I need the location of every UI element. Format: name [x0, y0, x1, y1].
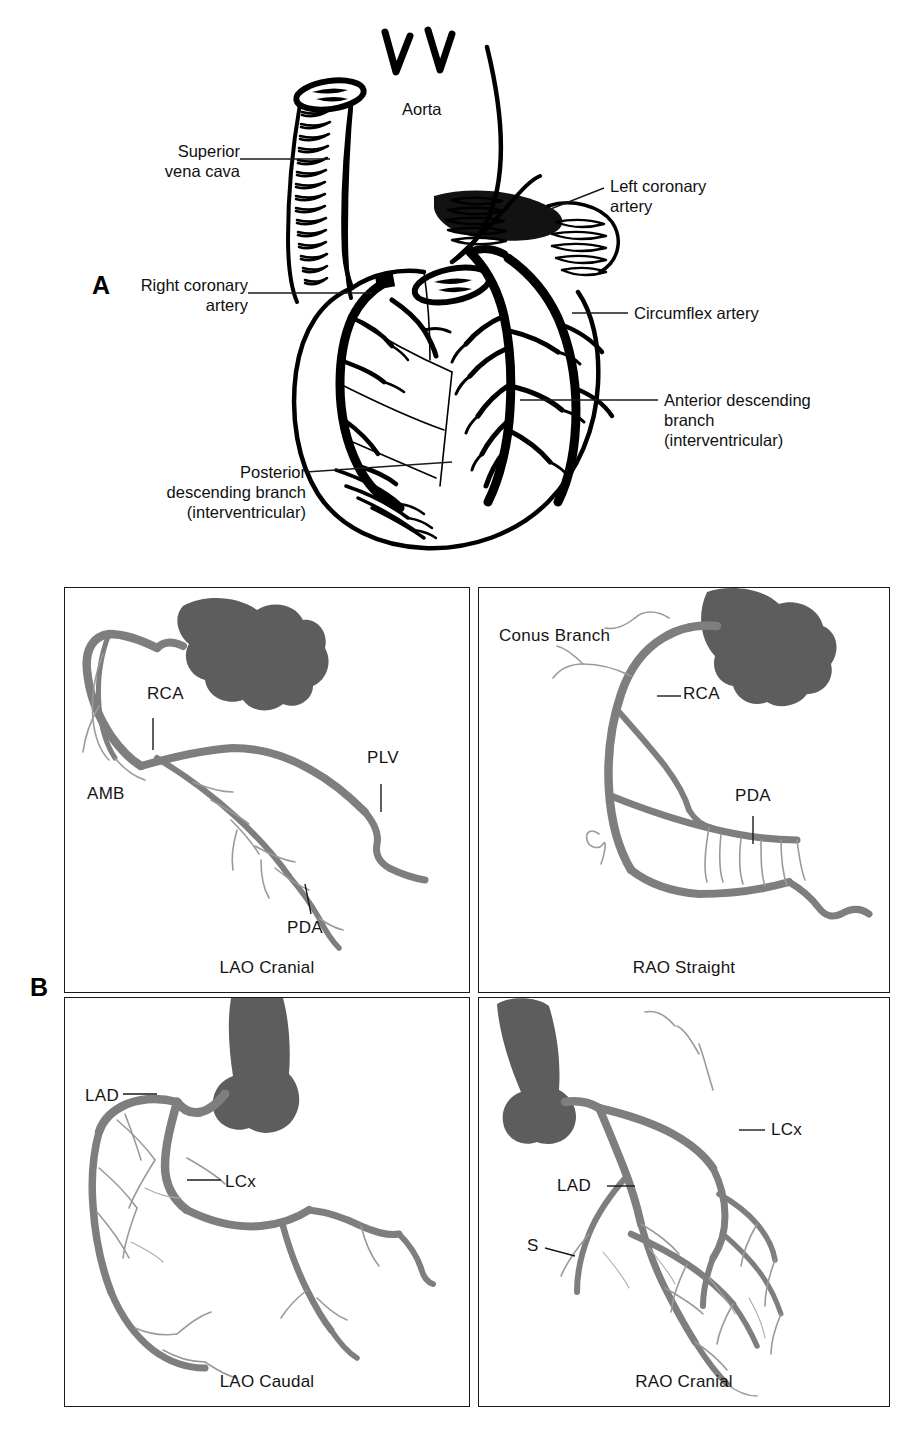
label-rca: RCA [147, 684, 184, 704]
label-right-coronary-artery: Right coronary artery [66, 275, 248, 315]
aortic-catheter-blob [497, 998, 576, 1144]
leader-posterior-descending-branch [306, 462, 452, 472]
rca-rao-straight-drawing [479, 588, 888, 991]
pda-septal-2 [740, 838, 743, 884]
pda-septal-1 [720, 834, 723, 882]
label-posterior-descending-branch: Posterior descending branch (interventri… [100, 462, 306, 522]
pda-septal-3 [761, 840, 765, 886]
conus-branch [635, 612, 669, 618]
vessel-stump-right-icon [428, 30, 452, 70]
label-circumflex-artery: Circumflex artery [634, 303, 854, 323]
diagonal-1b [129, 1160, 155, 1208]
sinus-node-branch [553, 664, 631, 678]
pda-septal-2 [211, 800, 249, 824]
aortic-catheter-blob [213, 998, 300, 1133]
label-pda: PDA [735, 786, 771, 806]
label-lcx: LCx [771, 1120, 802, 1140]
lca-lao-caudal-drawing [65, 998, 468, 1405]
angiogram-panel-rao-cranial: LCx LAD S RAO Cranial [478, 997, 890, 1407]
left-main-coronary-artery [470, 249, 504, 254]
lad-septal-twigs [452, 344, 482, 470]
lca-rao-cranial-drawing [479, 998, 888, 1405]
view-name-rao-cranial: RAO Cranial [479, 1372, 889, 1392]
left-auricle-contour [548, 203, 618, 272]
label-plv: PLV [367, 748, 399, 768]
hair-4 [603, 1252, 629, 1288]
label-superior-vena-cava: Superior vena cava [60, 141, 240, 181]
apical-1 [135, 1328, 177, 1335]
label-lad: LAD [557, 1176, 591, 1196]
label-aorta: Aorta [402, 99, 522, 119]
left-auricle-hatching [552, 220, 606, 275]
rca-main-trunk [609, 626, 718, 871]
vessel-stump-left-icon [385, 32, 410, 72]
diagonal-1 [117, 1120, 155, 1160]
lcx-top-twig-2 [677, 1026, 699, 1054]
coronary-anatomy-figure: A [0, 0, 920, 1431]
rca-terminal [789, 882, 869, 916]
septal-branch-distal [733, 1304, 757, 1346]
lcx-om2 [283, 1226, 331, 1330]
angiogram-panel-lao-caudal: LAD LCx LAO Caudal [64, 997, 470, 1407]
angiogram-panel-rao-straight: Conus Branch RCA PDA RAO Straight [478, 587, 890, 993]
rca-distal-course [631, 870, 789, 894]
label-s: S [527, 1236, 539, 1256]
label-pda: PDA [287, 918, 323, 938]
acute-marginal-branch [619, 712, 689, 810]
apical-2 [177, 1312, 211, 1334]
lad-distal [111, 1292, 205, 1368]
lcx-mid [187, 1210, 309, 1226]
label-amb: AMB [87, 784, 125, 804]
aortic-catheter-blob [701, 588, 836, 706]
lcx-om1 [309, 1210, 399, 1235]
rca-distal-course [141, 748, 365, 812]
sinus-node-twig [557, 646, 583, 664]
left-atrial-appendage-shape [434, 191, 562, 241]
septal-1 [125, 1114, 141, 1160]
leader-s [545, 1248, 575, 1256]
lcx-om1-distal [399, 1234, 433, 1284]
label-left-coronary-artery: Left coronary artery [610, 176, 810, 216]
panel-b-angiographic-views: RCA AMB PLV PDA LAO Cranial [0, 565, 920, 1431]
pda-septal-6 [232, 830, 237, 870]
svc-left-contour [288, 104, 300, 302]
panel-a-anterior-heart-diagram: A [0, 0, 920, 565]
plv-branch [365, 812, 425, 880]
view-name-lao-caudal: LAO Caudal [65, 1372, 469, 1392]
om-twig-3 [281, 1290, 307, 1318]
lcx-mid [713, 1168, 725, 1258]
pda-main [157, 758, 289, 876]
lad-mid [92, 1132, 111, 1292]
rca-small-twigs [384, 346, 408, 392]
pda-septal-5 [797, 840, 805, 880]
lcx-om2-distal [331, 1330, 357, 1358]
circumflex-artery [508, 258, 576, 502]
view-name-lao-cranial: LAO Cranial [65, 958, 469, 978]
label-lad: LAD [85, 1086, 119, 1106]
lcx-upper-branch [699, 1044, 713, 1090]
svc-corrugation-hatching [296, 110, 330, 284]
label-anterior-descending-branch: Anterior descending branch (interventric… [664, 390, 900, 450]
lcx-fine-2 [131, 1242, 163, 1262]
pda-septal-7 [261, 860, 269, 898]
lcx-top-twig [645, 1012, 675, 1026]
label-rca: RCA [683, 684, 720, 704]
panel-b-letter: B [30, 973, 49, 1002]
label-lcx: LCx [225, 1172, 256, 1192]
pda-septal-fan [705, 828, 709, 882]
angiogram-panel-lao-cranial: RCA AMB PLV PDA LAO Cranial [64, 587, 470, 993]
fine-4 [717, 1304, 733, 1344]
label-conus-branch: Conus Branch [499, 626, 610, 646]
fine-7 [771, 1314, 781, 1354]
vessel-loop [587, 831, 606, 864]
leader-left-coronary-artery [548, 188, 604, 210]
rv-branch-twig [424, 328, 450, 332]
lcx-proximal [165, 1102, 187, 1210]
view-name-rao-straight: RAO Straight [479, 958, 889, 978]
svc-lumen-ellipse [294, 76, 365, 113]
aortic-catheter-blob [177, 598, 328, 710]
rca-lao-cranial-drawing [65, 588, 468, 991]
